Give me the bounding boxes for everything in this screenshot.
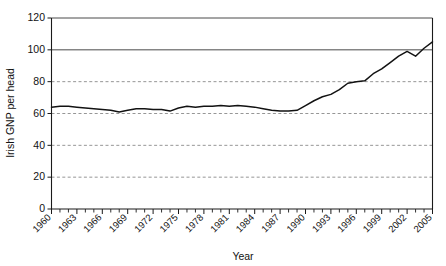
x-tick-label-1996: 1996 [335,212,358,235]
x-axis-tick-labels: 1960196319661969197219751978198119841987… [30,212,434,235]
y-tick-label-120: 120 [27,11,45,23]
x-tick-label-1981: 1981 [208,212,231,235]
x-tick-label-2005: 2005 [411,212,434,235]
chart-container: 020406080100120 196019631966196919721975… [0,0,446,266]
x-tick-label-1999: 1999 [360,212,383,235]
x-tick-label-1960: 1960 [30,212,53,235]
x-tick-label-1984: 1984 [233,212,256,235]
y-axis-tick-labels: 020406080100120 [27,11,45,214]
x-tick-label-1969: 1969 [106,212,129,235]
y-tick-label-20: 20 [33,170,45,182]
x-tick-label-1987: 1987 [259,212,282,235]
y-tick-label-100: 100 [27,43,45,55]
x-tick-label-1990: 1990 [284,212,307,235]
x-tick-label-2002: 2002 [386,212,409,235]
x-tick-label-1993: 1993 [310,212,333,235]
x-axis-title: Year [232,250,254,262]
x-tick-label-1978: 1978 [183,212,206,235]
x-tick-label-1963: 1963 [56,212,79,235]
x-tick-label-1972: 1972 [132,212,155,235]
gnp-line-chart: 020406080100120 196019631966196919721975… [0,0,446,266]
y-tick-label-60: 60 [33,107,45,119]
y-axis-title: Irish GNP per head [4,68,16,158]
y-tick-label-80: 80 [33,75,45,87]
y-axis-ticks [48,18,52,209]
x-tick-label-1966: 1966 [81,212,104,235]
gridlines-group [52,18,433,177]
data-series-line [52,42,433,112]
y-tick-label-40: 40 [33,139,45,151]
x-tick-label-1975: 1975 [157,212,180,235]
